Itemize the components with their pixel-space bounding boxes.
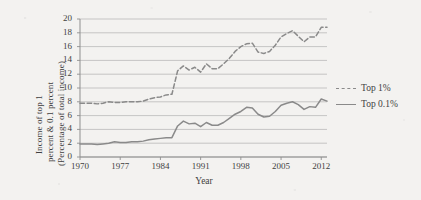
x-tick-label: 1970 (63, 161, 97, 171)
y-axis-title-line-1: Income of top 1 (34, 95, 44, 154)
legend-key-top-1-icon (336, 88, 356, 89)
chart-legend: Top 1% Top 0.1% (336, 80, 398, 112)
y-tick-label: 4 (56, 123, 72, 133)
x-axis-title: Year (80, 176, 328, 186)
y-tick-label: 20 (56, 13, 72, 23)
y-tick-label: 0 (56, 151, 72, 161)
y-tick-label: 8 (56, 96, 72, 106)
y-tick-label: 18 (56, 27, 72, 37)
series-line-top-1 (80, 27, 327, 104)
legend-label-top-01: Top 0.1% (361, 99, 398, 109)
x-tick-label: 1991 (184, 161, 218, 171)
series-line-top-01 (80, 99, 327, 145)
y-tick-label: 6 (56, 110, 72, 120)
x-tick-label: 1977 (103, 161, 137, 171)
legend-label-top-1: Top 1% (361, 83, 391, 93)
x-tick-label: 1998 (224, 161, 258, 171)
legend-key-top-01-icon (336, 104, 356, 105)
x-tick-label: 2012 (304, 161, 338, 171)
y-tick-label: 2 (56, 137, 72, 147)
legend-item-top-1: Top 1% (336, 80, 398, 96)
y-tick-label: 14 (56, 54, 72, 64)
income-share-line-chart: Income of top 1 percent & 0.1 percent (P… (0, 0, 421, 200)
y-tick-label: 16 (56, 41, 72, 51)
y-tick-label: 10 (56, 82, 72, 92)
x-tick-label: 1984 (143, 161, 177, 171)
y-axis-title-line-2: percent & 0.1 percent (45, 82, 55, 162)
y-tick-label: 12 (56, 68, 72, 78)
legend-item-top-01: Top 0.1% (336, 96, 398, 112)
x-tick-label: 2005 (264, 161, 298, 171)
